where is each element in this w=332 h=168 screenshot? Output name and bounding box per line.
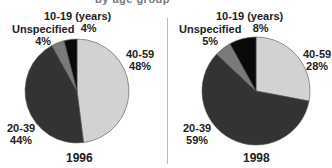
pie-slice-40-59 xyxy=(256,37,310,101)
label-1998-unspecified: Unspecified 5% xyxy=(179,23,241,47)
label-1998-40-59: 40-59 28% xyxy=(303,48,331,72)
year-label-1998: 1998 xyxy=(243,151,270,165)
label-1996-40-59: 40-59 48% xyxy=(126,48,154,72)
label-1998-20-39: 20-39 59% xyxy=(183,122,211,146)
year-label-1996: 1996 xyxy=(66,151,93,165)
label-1996-20-39: 20-39 44% xyxy=(7,122,35,146)
pie-1998 xyxy=(202,37,310,145)
label-1996-unspecified: Unspecified 4% xyxy=(12,23,74,47)
pie-1996 xyxy=(25,39,129,143)
pie-slice-40-59 xyxy=(77,39,129,143)
divider xyxy=(167,18,168,164)
